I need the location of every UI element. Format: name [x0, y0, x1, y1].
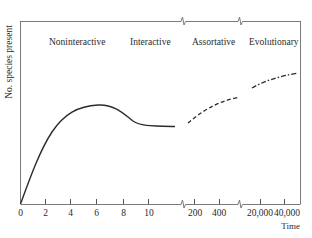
- x-tick-label-40000: 40,000: [274, 208, 300, 218]
- top-border: [21, 17, 301, 25]
- x-tick-label-4: 4: [68, 208, 73, 218]
- x-tick-label-200: 200: [188, 208, 203, 218]
- x-tick-label-0: 0: [18, 208, 23, 218]
- phase-label-interactive: Interactive: [130, 37, 171, 47]
- x-tick-label-8: 8: [121, 208, 126, 218]
- x-tick-label-2: 2: [43, 208, 48, 218]
- x-tick-label-20000: 20,000: [247, 208, 273, 218]
- series-solid-curve: [21, 105, 176, 204]
- species-over-time-chart: 0 2 4 6 8 10 200 400 20,000 40,000 Time …: [0, 0, 312, 238]
- phase-label-noninteractive: Noninteractive: [49, 37, 105, 47]
- x-tick-label-400: 400: [212, 208, 227, 218]
- series-assortative-dashed: [188, 98, 238, 124]
- y-axis-label: No. species present: [4, 25, 14, 99]
- phase-label-assortative: Assortative: [192, 37, 235, 47]
- phase-label-evolutionary: Evolutionary: [249, 37, 299, 47]
- series-evolutionary-dashdot: [252, 73, 298, 88]
- x-axis-label: Time: [281, 221, 300, 231]
- x-ticks: [46, 199, 285, 204]
- x-tick-label-10: 10: [144, 208, 154, 218]
- x-axis-line: [21, 200, 301, 208]
- x-tick-label-6: 6: [94, 208, 99, 218]
